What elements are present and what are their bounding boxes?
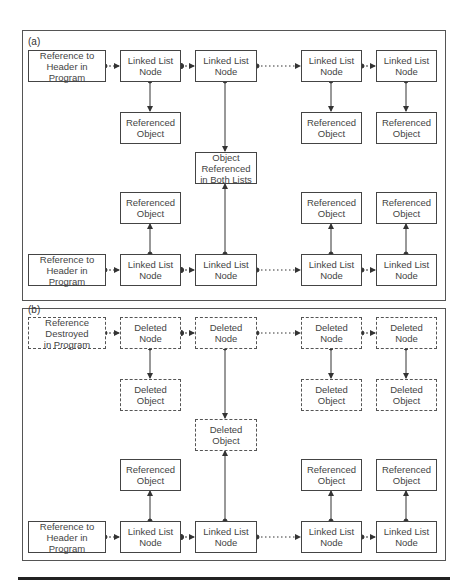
linked-list-reference-diagram: (a) (b): [0, 0, 468, 585]
deleted-object: Deleted Object: [120, 379, 181, 411]
shared-object: Object Referenced in Both Lists: [195, 152, 257, 184]
referenced-object: Referenced Object: [301, 459, 362, 491]
deleted-node: Deleted Node: [120, 317, 181, 349]
deleted-object: Deleted Object: [376, 379, 437, 411]
referenced-object: Referenced Object: [301, 112, 362, 144]
linked-list-node: Linked List Node: [195, 254, 257, 286]
deleted-shared-object: Deleted Object: [195, 419, 257, 451]
linked-list-node: Linked List Node: [301, 50, 362, 82]
linked-list-node: Linked List Node: [120, 521, 181, 553]
linked-list-node: Linked List Node: [301, 521, 362, 553]
referenced-object: Referenced Object: [120, 459, 181, 491]
linked-list-node: Linked List Node: [376, 50, 437, 82]
deleted-node: Deleted Node: [195, 317, 257, 349]
connector-lines: [0, 0, 468, 585]
linked-list-node: Linked List Node: [195, 50, 257, 82]
bottom-rule-divider: [18, 577, 450, 580]
linked-list-node: Linked List Node: [120, 50, 181, 82]
referenced-object: Referenced Object: [301, 192, 362, 224]
linked-list-node: Linked List Node: [120, 254, 181, 286]
referenced-object: Referenced Object: [376, 192, 437, 224]
referenced-object: Referenced Object: [120, 112, 181, 144]
linked-list-node: Linked List Node: [195, 521, 257, 553]
referenced-object: Referenced Object: [120, 192, 181, 224]
deleted-node: Deleted Node: [301, 317, 362, 349]
header-reference-box: Reference to Header in Program: [28, 254, 106, 286]
deleted-object: Deleted Object: [301, 379, 362, 411]
referenced-object: Referenced Object: [376, 112, 437, 144]
header-reference-box: Reference to Header in Program: [28, 521, 106, 553]
linked-list-node: Linked List Node: [301, 254, 362, 286]
referenced-object: Referenced Object: [376, 459, 437, 491]
header-reference-box: Reference to Header in Program: [28, 50, 106, 82]
linked-list-node: Linked List Node: [376, 254, 437, 286]
linked-list-node: Linked List Node: [376, 521, 437, 553]
destroyed-reference-box: Reference Destroyed in Program: [28, 317, 106, 349]
deleted-node: Deleted Node: [376, 317, 437, 349]
